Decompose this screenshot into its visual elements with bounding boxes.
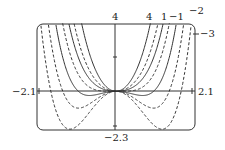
curve-label-minus3: −3 [200, 29, 215, 39]
function-plot [0, 0, 225, 150]
curve-label-1: 1 [161, 12, 167, 22]
x-min-label: −2.1 [12, 87, 36, 97]
curve-c--3 [41, 26, 191, 129]
curve-label-minus2: −2 [189, 6, 204, 16]
curve-c--2 [48, 25, 183, 108]
plot-frame [37, 24, 195, 130]
x-max-label: 2.1 [198, 87, 214, 97]
curve-label-4: 4 [146, 12, 152, 22]
y-max-label: 4 [112, 12, 118, 22]
curve-group [41, 23, 191, 129]
y-min-label: −2.3 [104, 133, 128, 143]
curve-label-minus1: −1 [169, 12, 184, 22]
curve-c-2 [74, 24, 158, 92]
curve-c--1 [56, 25, 176, 96]
